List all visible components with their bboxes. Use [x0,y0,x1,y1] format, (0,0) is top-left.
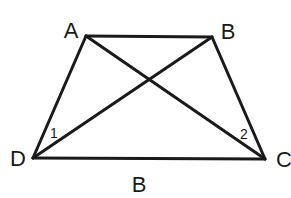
angle-label-2: 2 [240,126,248,142]
edge-ab [86,36,212,37]
vertex-label-a: A [64,18,79,43]
angle-label-1: 1 [50,125,58,141]
vertex-label-c: C [276,147,291,172]
bottom-label: B [132,172,147,197]
trapezoid-diagram: A B D C B 1 2 [0,0,291,198]
vertex-label-b: B [221,19,236,44]
vertex-label-d: D [10,146,26,171]
edge-cd [33,158,265,159]
